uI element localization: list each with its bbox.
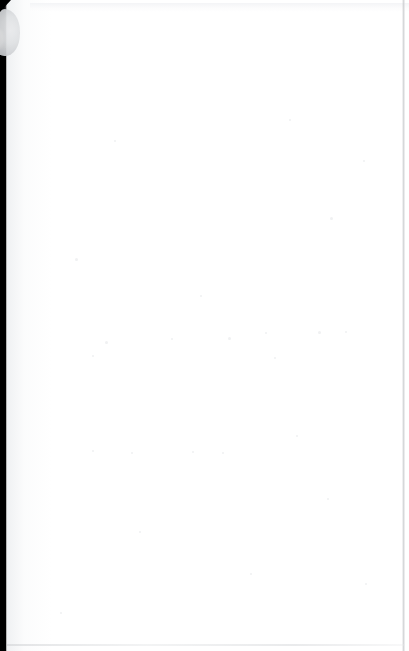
binding-shadow-core bbox=[0, 48, 6, 651]
page-edge-rule-top bbox=[30, 3, 409, 12]
page-edge-rule-right bbox=[402, 0, 405, 651]
scanned-page-viewport: Blank scanned page — no printed text, he… bbox=[0, 0, 409, 651]
thumb-artifact-highlight bbox=[0, 29, 4, 49]
page-surface bbox=[0, 0, 409, 651]
page-edge-rule-bottom bbox=[7, 644, 405, 646]
